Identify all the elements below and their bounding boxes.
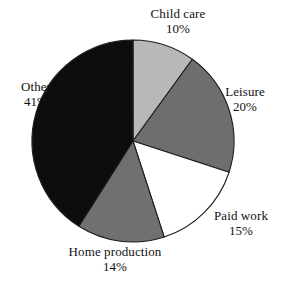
pie-chart-canvas	[0, 0, 285, 283]
pie-chart-figure: Child care 10% Leisure 20% Paid work 15%…	[0, 0, 285, 283]
pie-label-leisure-name: Leisure	[208, 84, 282, 99]
pie-label-other-value: 41%	[6, 94, 66, 109]
pie-label-leisure-value: 20%	[208, 99, 282, 114]
pie-label-other-name: Other	[6, 79, 66, 94]
pie-label-home-production-name: Home production	[48, 244, 182, 259]
pie-label-paid-work: Paid work 15%	[200, 208, 282, 238]
pie-label-leisure: Leisure 20%	[208, 84, 282, 114]
pie-label-child-care-value: 10%	[122, 21, 234, 36]
pie-label-paid-work-name: Paid work	[200, 208, 282, 223]
pie-label-child-care: Child care 10%	[122, 6, 234, 36]
pie-label-child-care-name: Child care	[122, 6, 234, 21]
pie-label-paid-work-value: 15%	[200, 223, 282, 238]
pie-label-home-production-value: 14%	[48, 259, 182, 274]
pie-label-home-production: Home production 14%	[48, 244, 182, 274]
pie-label-other: Other 41%	[6, 79, 66, 109]
